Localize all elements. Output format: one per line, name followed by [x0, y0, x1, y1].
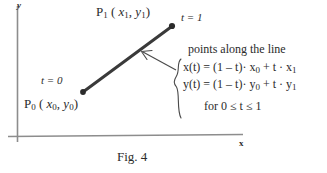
equation-x-lhs: x(t) = (1 – t)· x [183, 60, 255, 74]
y-axis-label: y [17, 1, 21, 10]
equation-x-rhs-subscript: 1 [292, 65, 297, 75]
point-p0-paren-close: ) [74, 96, 78, 111]
annotation-heading: points along the line [188, 43, 286, 55]
point-marker-p1 [169, 23, 175, 29]
parameter-label-t-one: t = 1 [181, 12, 202, 23]
point-p1-paren-open: ( [108, 4, 119, 19]
parameter-label-t-zero: t = 0 [41, 75, 62, 86]
point-p0-paren-open: ( [36, 96, 47, 111]
equation-y-lhs: y(t) = (1 – t)· y [183, 77, 255, 91]
x-axis [8, 135, 243, 137]
point-label-p0: P0 ( x0, y0) [24, 97, 78, 112]
equation-brace [174, 59, 181, 118]
equation-x-of-t: x(t) = (1 – t)· x0 + t · x1 [183, 61, 297, 75]
point-marker-p0 [80, 89, 86, 95]
figure-caption: Fig. 4 [117, 150, 147, 163]
equation-y-of-t: y(t) = (1 – t)· y0 + t · y1 [183, 78, 297, 92]
figure-line-parametrization: y x P1 ( x1, y1) P0 ( x0, y0) t = 1 t = … [0, 0, 327, 173]
annotation-arrow [142, 51, 177, 71]
equation-y-rhs-subscript: 1 [292, 82, 297, 92]
point-p1-paren-close: ) [146, 4, 150, 19]
point-label-p1: P1 ( x1, y1) [96, 5, 150, 20]
equation-y-rhs: + t · y [260, 77, 292, 91]
equation-x-rhs: + t · x [260, 60, 292, 74]
x-axis-label: x [239, 139, 244, 148]
equation-parameter-range: for 0 ≤ t ≤ 1 [204, 100, 262, 112]
